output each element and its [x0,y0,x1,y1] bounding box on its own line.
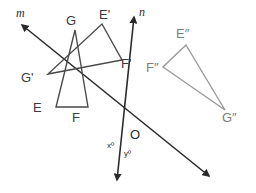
geometry-canvas: m n EFGE'F'G'E″F″G″ O xº yº [0,0,256,193]
vertex-f-prime-label: F' [121,56,131,71]
vertex-f-label: F [72,110,80,125]
triangle-e1f1g1-shape [48,24,122,74]
vertex-f-dprime-label: F″ [146,60,159,75]
triangle-e2f2g2-shape [163,45,225,110]
vertex-e-label: E [33,100,42,115]
line-m-label: m [16,6,25,20]
line-labels-group: m n [16,5,145,20]
lines-group [22,17,209,180]
vertex-e-prime-label: E' [99,7,110,22]
point-labels-group: O [130,127,140,142]
angle-x-label: xº [107,141,114,150]
line-n-label: n [139,5,145,19]
vertex-g-label: G [66,13,76,28]
vertex-e-dprime-label: E″ [176,26,190,41]
angle-y-label: yº [124,149,131,158]
vertex-g-prime-label: G' [21,70,34,85]
vertex-g-dprime-label: G″ [222,110,237,125]
point-o-label: O [130,127,140,142]
vertex-labels-group: EFGE'F'G'E″F″G″ [21,7,237,125]
geometry-figure: m n EFGE'F'G'E″F″G″ O xº yº [0,0,256,193]
